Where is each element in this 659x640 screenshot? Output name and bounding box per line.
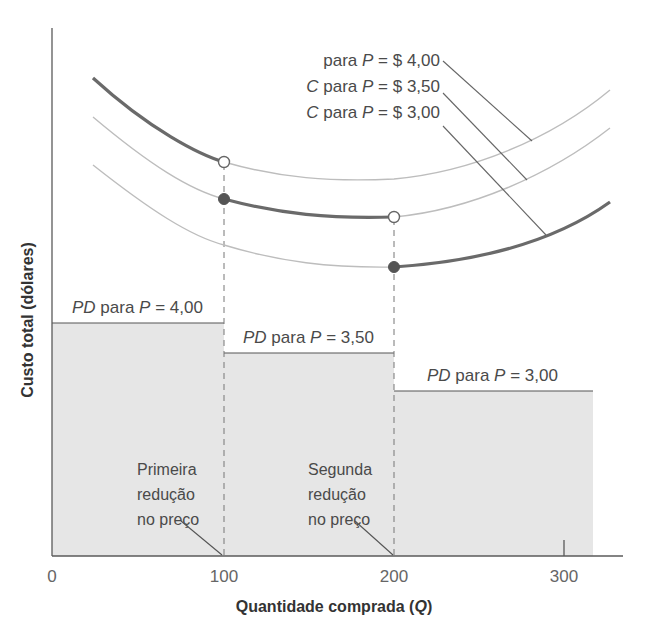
leader-c-3-00: [443, 126, 546, 235]
curve-c-4-00-effective: [93, 78, 224, 162]
point-open-100: [219, 157, 230, 168]
curve-c-3-50-effective: [224, 199, 394, 217]
label-pd-3-50: PD para P = 3,50: [243, 328, 374, 347]
label-pd-4-00: PD para P = 4,00: [72, 298, 203, 317]
x-tick-label-100: 100: [210, 567, 238, 586]
y-axis-title: Custo total (dólares): [19, 242, 36, 398]
point-filled-200: [389, 262, 400, 273]
annotation-line: Primeira: [137, 461, 197, 478]
x-tick-label-0: 0: [47, 567, 56, 586]
annotation-line: redução: [308, 486, 366, 503]
cost-chart: para P = $ 4,00 C para P = $ 3,50 C para…: [0, 0, 659, 640]
pd-region-3-00: [394, 391, 593, 556]
label-pd-3-00: PD para P = 3,00: [427, 366, 558, 385]
curve-c-3-50: [93, 117, 610, 217]
x-tick-label-200: 200: [380, 567, 408, 586]
annotation-line: no preço: [308, 511, 370, 528]
annotation-line: no preço: [137, 511, 199, 528]
x-tick-label-300: 300: [550, 567, 578, 586]
annotation-line: redução: [137, 486, 195, 503]
label-c-4-00: para P = $ 4,00: [323, 51, 440, 70]
x-axis-title: Quantidade comprada (Q): [236, 598, 432, 615]
label-c-3-00: C para P = $ 3,00: [306, 103, 440, 122]
point-filled-100: [219, 194, 230, 205]
leader-c-3-50: [443, 93, 527, 180]
annotation-line: Segunda: [308, 461, 372, 478]
leader-c-4-00: [443, 61, 532, 141]
label-c-3-50: C para P = $ 3,50: [306, 77, 440, 96]
point-open-200: [389, 212, 400, 223]
